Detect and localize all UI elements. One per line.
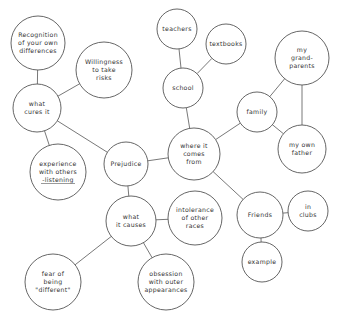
node-label: father (292, 149, 313, 156)
node-label: my (297, 46, 307, 54)
node-label: Prejudice (110, 160, 141, 168)
node-father: my ownfather (278, 125, 326, 173)
node-label: differences (19, 47, 57, 54)
node-label: cures it (24, 108, 50, 115)
node-label: clubs (299, 211, 317, 218)
node-label: races (186, 222, 204, 229)
edge-school-where-it-comes-from (186, 108, 189, 129)
node-label: it causes (116, 221, 146, 228)
node-friends: Friends (237, 192, 283, 238)
edge-what-it-causes-intolerance (156, 219, 168, 220)
node-grandparents: mygrand-parents (275, 31, 329, 85)
node-label: with outer (149, 278, 184, 285)
edge-textbooks-school (197, 58, 212, 73)
node-label: to take (92, 66, 116, 73)
edge-prejudice-where-it-comes-from (148, 158, 169, 161)
node-label: in (305, 203, 311, 210)
node-label: appearances (144, 286, 187, 294)
node-label: what (29, 100, 46, 107)
node-label: with others (39, 168, 77, 175)
node-prejudice: Prejudice (104, 142, 148, 186)
edge-family-father (272, 125, 283, 134)
node-example: example (242, 242, 282, 282)
node-willingness: Willingnessto takerisks (76, 42, 132, 98)
node-label: what (123, 213, 140, 220)
edge-where-it-comes-from-friends (213, 172, 243, 200)
node-where-it-comes-from: where itcomesfrom (168, 128, 220, 180)
node-label: fear of (42, 270, 65, 277)
edge-where-it-comes-from-family (216, 123, 241, 140)
edge-prejudice-what-it-causes (128, 186, 129, 196)
node-label: of your own (18, 39, 58, 47)
node-label: teachers (162, 25, 191, 32)
edge-teachers-school (179, 49, 181, 68)
edge-what-it-causes-fear (75, 236, 111, 264)
node-label: of other (182, 214, 209, 221)
node-label: where it (180, 142, 208, 149)
node-obsession: obsessionwith outerappearances (138, 254, 194, 310)
node-label: school (172, 84, 194, 91)
edge-what-cures-it-experience (45, 131, 50, 146)
nodes-layer: Recognitionof your owndifferencesWilling… (11, 9, 329, 310)
node-label: risks (96, 74, 112, 81)
node-label: example (248, 258, 277, 266)
node-label: intolerance (176, 206, 214, 213)
node-label: obsession (149, 270, 182, 277)
node-recognition: Recognitionof your owndifferences (11, 16, 65, 70)
node-fear: fear ofbeing"different" (25, 254, 81, 310)
node-label: parents (289, 62, 315, 70)
node-intolerance: intoleranceof otherraces (168, 191, 222, 245)
node-label: -listening (42, 176, 74, 184)
node-teachers: teachers (157, 9, 197, 49)
node-label: textbooks (209, 40, 242, 47)
node-label: comes (183, 150, 205, 157)
node-in-clubs: inclubs (288, 191, 328, 231)
node-what-cures-it: whatcures it (13, 84, 61, 132)
node-label: Friends (248, 211, 272, 218)
node-label: being (44, 278, 63, 286)
node-textbooks: textbooks (206, 24, 246, 64)
edge-willingness-what-cures-it (58, 84, 80, 96)
edge-what-it-causes-obsession (143, 243, 152, 258)
node-label: grand- (291, 54, 313, 62)
node-school: school (163, 68, 203, 108)
node-experience: experiencewith others-listening (30, 144, 86, 200)
edge-family-grandparents (270, 79, 285, 97)
node-label: Recognition (18, 31, 58, 39)
node-label: experience (39, 160, 76, 168)
node-label: "different" (35, 286, 70, 293)
node-label: family (247, 108, 268, 116)
concept-map: Recognitionof your owndifferencesWilling… (0, 0, 339, 329)
node-label: my own (289, 141, 315, 149)
node-family: family (237, 92, 277, 132)
node-label: from (186, 158, 202, 165)
node-label: Willingness (85, 58, 123, 66)
node-what-it-causes: whatit causes (106, 196, 156, 246)
